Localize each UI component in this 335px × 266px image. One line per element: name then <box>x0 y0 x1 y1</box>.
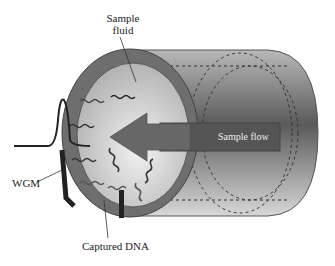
flow-cell-diagram <box>0 0 335 266</box>
wgm-label: WGM <box>12 177 40 189</box>
sample-fluid-label-line2: fluid <box>99 24 147 36</box>
sample-fluid-label: Sample fluid <box>99 12 147 36</box>
captured-dna-label: Captured DNA <box>82 240 149 252</box>
sample-fluid-label-line1: Sample <box>99 12 147 24</box>
sample-flow-label: Sample flow <box>218 131 269 142</box>
